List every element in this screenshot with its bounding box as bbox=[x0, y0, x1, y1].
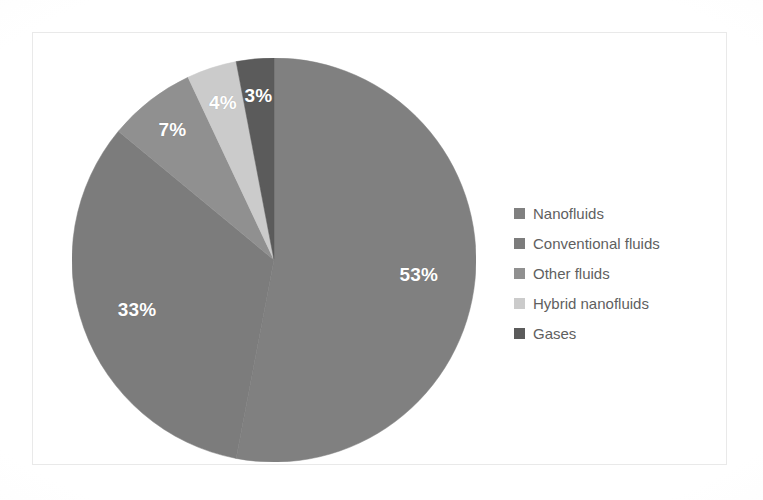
legend-item: Conventional fluids bbox=[514, 228, 719, 258]
legend-item-label: Nanofluids bbox=[533, 205, 604, 222]
legend-swatch-icon bbox=[514, 208, 525, 219]
legend-item-label: Gases bbox=[533, 325, 576, 342]
pie-slice-label: 33% bbox=[118, 300, 157, 319]
pie-svg bbox=[72, 58, 476, 462]
legend-swatch-icon bbox=[514, 328, 525, 339]
legend-item: Other fluids bbox=[514, 258, 719, 288]
legend-item: Gases bbox=[514, 318, 719, 348]
legend-item: Nanofluids bbox=[514, 198, 719, 228]
pie-chart-figure: 53%33%7%4%3% NanofluidsConventional flui… bbox=[0, 0, 763, 500]
chart-legend: NanofluidsConventional fluidsOther fluid… bbox=[514, 198, 719, 348]
legend-item-label: Hybrid nanofluids bbox=[533, 295, 649, 312]
pie-slice-label: 7% bbox=[159, 120, 187, 139]
legend-swatch-icon bbox=[514, 238, 525, 249]
legend-item-label: Other fluids bbox=[533, 265, 610, 282]
pie-slice-label: 53% bbox=[399, 264, 438, 283]
pie-slice-group bbox=[72, 58, 476, 462]
legend-item-label: Conventional fluids bbox=[533, 235, 660, 252]
legend-swatch-icon bbox=[514, 268, 525, 279]
pie-slice-label: 3% bbox=[244, 86, 272, 105]
pie-slice-label: 4% bbox=[209, 93, 237, 112]
legend-item: Hybrid nanofluids bbox=[514, 288, 719, 318]
pie-graphic: 53%33%7%4%3% bbox=[72, 58, 476, 462]
legend-swatch-icon bbox=[514, 298, 525, 309]
